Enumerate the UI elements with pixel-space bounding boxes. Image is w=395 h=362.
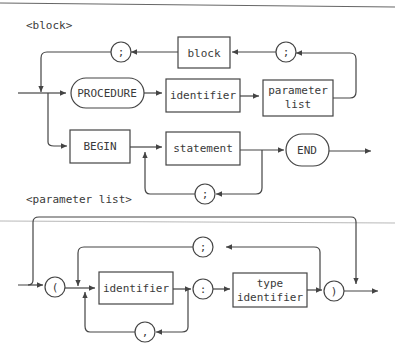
parameter-list-diagram: <parameter list> ( identifier , ;: [18, 193, 378, 342]
svg-text:identifier: identifier: [103, 282, 170, 295]
begin-terminal: BEGIN: [70, 130, 130, 163]
procedure-terminal: PROCEDURE: [71, 78, 144, 108]
svg-text:;: ;: [202, 188, 209, 201]
parameter-list-nonterminal: parameter list: [263, 80, 333, 116]
svg-text:;: ;: [283, 46, 290, 59]
semicolon-stmt-terminal: ;: [195, 184, 215, 204]
svg-text:identifier: identifier: [237, 291, 304, 304]
top-rule: [0, 3, 395, 7]
svg-text:list: list: [285, 98, 312, 111]
end-terminal: END: [286, 134, 329, 166]
svg-text:parameter: parameter: [268, 84, 328, 97]
syntax-diagram-canvas: <block> PROCEDURE identifier parameter l…: [0, 0, 395, 362]
parameter-list-title: <parameter list>: [26, 193, 132, 206]
semicolon-top-terminal: ;: [111, 42, 131, 62]
svg-text:type: type: [257, 277, 284, 290]
identifier-nonterminal: identifier: [166, 79, 240, 112]
svg-text:BEGIN: BEGIN: [83, 140, 116, 153]
rparen-terminal: ): [324, 281, 344, 301]
svg-text:block: block: [187, 47, 220, 60]
svg-text:END: END: [297, 144, 317, 157]
lparen-terminal: (: [45, 277, 65, 297]
svg-text:identifier: identifier: [170, 89, 237, 102]
svg-text:;: ;: [118, 46, 125, 59]
statement-nonterminal: statement: [166, 132, 240, 165]
section-divider: [0, 221, 395, 223]
semicolon-right-terminal: ;: [276, 42, 296, 62]
svg-text:PROCEDURE: PROCEDURE: [77, 87, 137, 100]
block-nonterminal: block: [178, 37, 230, 68]
svg-text:statement: statement: [173, 142, 233, 155]
svg-text::: :: [200, 283, 207, 296]
block-title: <block>: [26, 19, 73, 32]
identifier-nonterminal: identifier: [99, 272, 173, 304]
colon-terminal: :: [193, 279, 213, 299]
svg-text:(: (: [52, 281, 59, 294]
comma-terminal: ,: [135, 322, 155, 342]
svg-text:;: ;: [200, 241, 207, 254]
type-identifier-nonterminal: type identifier: [233, 273, 307, 307]
svg-text:): ): [331, 285, 338, 298]
semicolon-terminal: ;: [193, 237, 213, 257]
block-diagram: <block> PROCEDURE identifier parameter l…: [18, 19, 371, 204]
svg-text:,: ,: [142, 326, 149, 339]
